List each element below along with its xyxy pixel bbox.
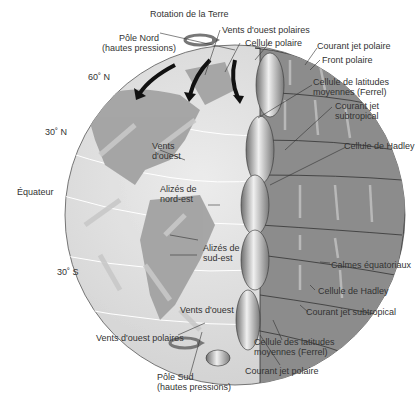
label-doldrums: Calmes équatoriaux: [331, 260, 411, 270]
label-ferrel-south: Cellule des latitudes moyennes (Ferrel): [254, 337, 335, 357]
label-polar-easterlies-south: Vents d'ouest polaires: [96, 333, 184, 343]
label-polar-easterlies-north: Vents d'ouest polaires: [222, 25, 310, 35]
label-polar-jet-north: Courant jet polaire: [317, 41, 391, 51]
label-lat-30s: 30˚ S: [57, 267, 79, 277]
label-ferrel-north-line2: moyennes (Ferrel): [313, 87, 389, 97]
label-ferrel-north-line1: Cellule de latitudes: [313, 77, 389, 87]
label-westerlies-south: Vents d'ouest: [180, 305, 234, 315]
label-south-pole-line1: Pôle Sud: [157, 372, 231, 382]
label-subtropical-jet-north-line2: subtropical: [335, 111, 379, 121]
label-polar-cell-north: Cellule polaire: [245, 38, 302, 48]
label-se-trades: Alizés de sud-est: [203, 243, 240, 263]
label-se-trades-line2: sud-est: [203, 253, 240, 263]
label-ne-trades-line2: nord-est: [160, 194, 197, 204]
label-polar-jet-south: Courant jet polaire: [245, 366, 319, 376]
label-south-pole-line2: (hautes pressions): [157, 382, 231, 392]
label-north-pole-line1: Pôle Nord: [102, 33, 176, 43]
label-rotation: Rotation de la Terre: [150, 9, 228, 19]
label-ferrel-north: Cellule de latitudes moyennes (Ferrel): [313, 77, 389, 97]
label-ferrel-south-line1: Cellule des latitudes: [254, 337, 335, 347]
label-hadley-south: Cellule de Hadley: [318, 286, 389, 296]
label-ne-trades: Alizés de nord-est: [160, 184, 197, 204]
label-subtropical-jet-north: Courant jet subtropical: [335, 101, 379, 121]
label-westerlies-north: Vents d'ouest: [152, 141, 181, 161]
label-lat-60n: 60˚ N: [88, 72, 110, 82]
label-ferrel-south-line2: moyennes (Ferrel): [254, 347, 335, 357]
label-hadley-north: Cellule de Hadley: [344, 141, 415, 151]
label-lat-30n: 30˚ N: [45, 127, 67, 137]
label-subtropical-jet-north-line1: Courant jet: [335, 101, 379, 111]
label-polar-front: Front polaire: [322, 55, 373, 65]
label-north-pole: Pôle Nord (hautes pressions): [102, 33, 176, 53]
label-north-pole-line2: (hautes pressions): [102, 43, 176, 53]
label-westerlies-north-line1: Vents: [152, 141, 181, 151]
label-south-pole: Pôle Sud (hautes pressions): [157, 372, 231, 392]
label-se-trades-line1: Alizés de: [203, 243, 240, 253]
label-equator: Équateur: [17, 187, 54, 197]
label-westerlies-north-line2: d'ouest: [152, 151, 181, 161]
label-subtropical-jet-south: Courant jet subtropical: [306, 307, 396, 317]
label-ne-trades-line1: Alizés de: [160, 184, 197, 194]
